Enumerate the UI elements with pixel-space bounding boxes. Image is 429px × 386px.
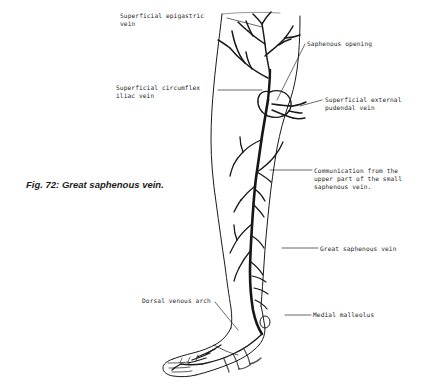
leader-saphenous-opening	[277, 44, 305, 100]
dorsal-venous-arch	[172, 334, 262, 372]
label-great-saphenous-vein: Great saphenous vein	[320, 245, 397, 253]
upper-tributary-veins	[218, 12, 306, 119]
great-saphenous-vein-illustration	[0, 0, 429, 386]
leader-superficial-epigastric	[227, 18, 262, 27]
anatomical-figure: Fig. 72: Great saphenous vein. Superfici…	[0, 0, 429, 386]
label-dorsal-venous-arch: Dorsal venous arch	[142, 297, 211, 305]
label-communication-small-saphenous-vein: Communication from the upper part of the…	[314, 167, 402, 192]
label-superficial-epigastric-vein: Superficial epigastric vein	[120, 12, 204, 28]
figure-caption: Fig. 72: Great saphenous vein.	[26, 179, 164, 190]
leader-dorsal-venous-arch	[215, 302, 238, 330]
label-superficial-circumflex-iliac-vein: Superficial circumflex iliac vein	[116, 84, 200, 100]
ankle-venous-detail	[252, 276, 268, 309]
great-saphenous-vein-trunk	[250, 100, 268, 334]
label-superficial-external-pudendal-vein: Superficial external pudendal vein	[325, 96, 402, 112]
label-saphenous-opening: Saphenous opening	[307, 40, 372, 48]
label-medial-malleolus: Medial malleolus	[313, 311, 374, 319]
